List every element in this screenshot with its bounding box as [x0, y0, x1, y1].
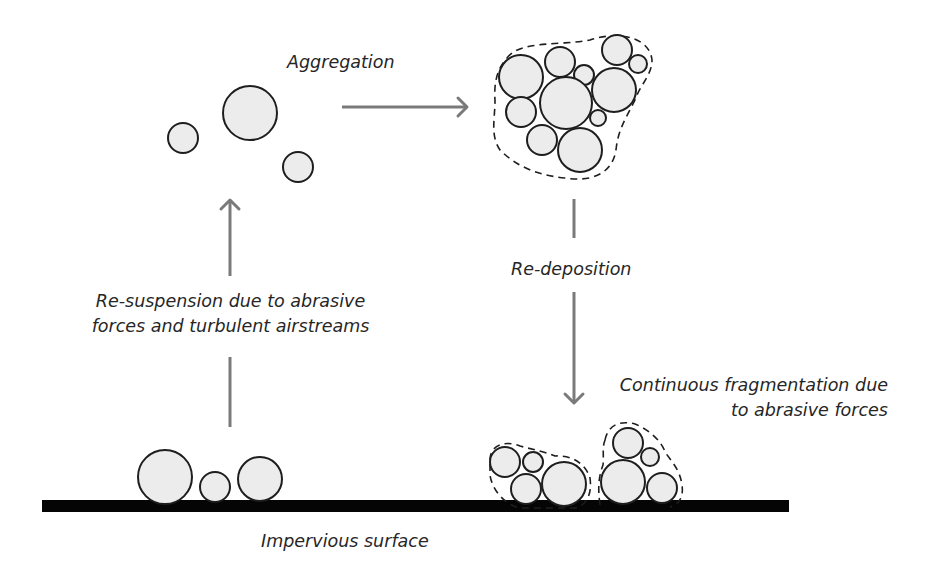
- particle-circle: [613, 428, 643, 458]
- label-fragmentation-line2: to abrasive forces: [596, 398, 888, 423]
- particle-circle: [200, 472, 230, 502]
- aggregated-particle-cluster: [494, 35, 652, 179]
- label-aggregation: Aggregation: [287, 50, 395, 75]
- particle-cycle-diagram: [0, 0, 929, 563]
- airborne-particles: [168, 86, 313, 182]
- particle-circle: [490, 447, 520, 477]
- label-resuspension-line2: forces and turbulent airstreams: [64, 314, 397, 339]
- particle-circle: [558, 128, 602, 172]
- label-resuspension-line1: Re-suspension due to abrasive: [64, 289, 397, 314]
- particle-circle: [647, 473, 677, 503]
- particle-circle: [238, 457, 282, 501]
- label-redeposition: Re-deposition: [511, 257, 631, 282]
- particle-circle: [527, 125, 557, 155]
- particle-circle: [506, 97, 536, 127]
- particle-circle: [601, 460, 645, 504]
- particle-circle: [592, 68, 636, 112]
- particle-circle: [283, 152, 313, 182]
- fragment-cluster-left: [490, 444, 590, 508]
- particle-circle: [629, 55, 647, 73]
- particle-circle: [223, 86, 277, 140]
- particle-circle: [542, 462, 586, 506]
- label-resuspension: Re-suspension due to abrasive forces and…: [64, 289, 397, 339]
- label-impervious-surface: Impervious surface: [261, 529, 429, 554]
- particle-circle: [540, 77, 592, 129]
- particle-circle: [545, 47, 575, 77]
- particle-circle: [499, 55, 543, 99]
- fragment-cluster-right: [599, 423, 683, 507]
- particle-circle: [138, 450, 192, 504]
- particle-circle: [168, 123, 198, 153]
- particle-circle: [641, 448, 659, 466]
- particle-circle: [602, 35, 632, 65]
- label-fragmentation-line1: Continuous fragmentation due: [596, 373, 888, 398]
- particle-circle: [523, 452, 543, 472]
- deposited-particles: [138, 450, 282, 504]
- particle-circle: [511, 474, 541, 504]
- particle-circle: [590, 110, 606, 126]
- label-fragmentation: Continuous fragmentation due to abrasive…: [596, 373, 888, 423]
